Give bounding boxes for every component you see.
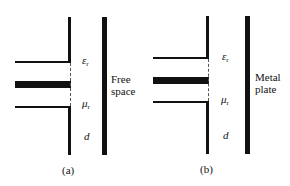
metal-plate — [245, 16, 250, 154]
epsilon-subscript: r — [226, 56, 228, 64]
free-space-boundary — [102, 17, 107, 155]
waveguide-center-conductor — [153, 77, 209, 84]
waveguide-upper-wall — [153, 57, 208, 59]
epsilon-subscript: r — [86, 60, 88, 68]
aperture-dashed-line — [70, 63, 71, 106]
waveguide-center-conductor — [15, 81, 71, 88]
panel-a-free-space: εr μr d Free space (a) — [0, 0, 145, 186]
panel-b-metal-plate: εr μr d Metal plate (b) — [145, 0, 290, 186]
flange-upper — [68, 17, 71, 63]
caption-b: (b) — [200, 163, 213, 175]
permittivity-label: εr — [82, 54, 89, 70]
flange-lower — [68, 106, 71, 155]
flange-upper — [206, 16, 209, 59]
permeability-label: μr — [82, 97, 90, 113]
medium-label-line2: space — [111, 85, 135, 97]
caption-a: (a) — [62, 164, 74, 176]
aperture-dashed-line — [208, 59, 209, 101]
mu-subscript: r — [227, 99, 229, 107]
medium-label-line1: Metal — [255, 71, 281, 83]
thickness-label: d — [223, 129, 229, 141]
waveguide-lower-wall — [153, 101, 208, 103]
flange-lower — [206, 101, 209, 154]
mu-subscript: r — [88, 103, 90, 111]
medium-label-line2: plate — [255, 83, 276, 95]
permeability-label: μr — [221, 93, 229, 109]
thickness-label: d — [84, 130, 90, 142]
waveguide-upper-wall — [15, 61, 70, 63]
waveguide-lower-wall — [15, 106, 70, 108]
permittivity-label: εr — [222, 50, 229, 66]
medium-label-line1: Free — [111, 73, 131, 85]
